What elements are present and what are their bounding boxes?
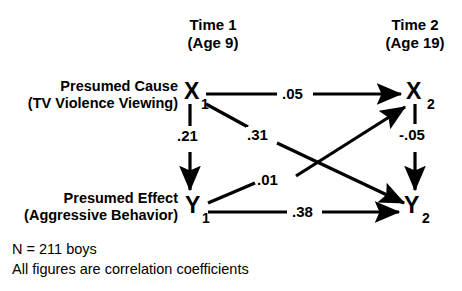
arrow-y1-to-x2-upper — [296, 107, 405, 176]
path-label-x1-to-y2: .31 — [246, 127, 269, 142]
column-header-time-1: Time 1 (Age 9) — [168, 16, 258, 51]
node-y2: Y — [404, 194, 419, 217]
path-label-x1-to-x2: .05 — [281, 86, 304, 101]
node-y1-subscript: 1 — [202, 211, 210, 225]
node-y1: Y — [185, 194, 200, 217]
row-header-presumed-effect: Presumed Effect (Aggressive Behavior) — [0, 190, 178, 224]
row-header-presumed-cause-line2: (TV Violence Viewing) — [0, 95, 178, 112]
row-header-presumed-effect-line2: (Aggressive Behavior) — [0, 207, 178, 224]
path-label-x1-to-y1: .21 — [176, 128, 199, 143]
row-header-presumed-effect-line1: Presumed Effect — [0, 190, 178, 207]
footnote-sample-size: N = 211 boys — [12, 240, 97, 260]
arrow-x1-to-y2-lower — [277, 143, 404, 203]
node-x1: X — [184, 80, 199, 103]
column-header-time-2-line1: Time 2 — [368, 16, 462, 34]
node-x2: X — [406, 80, 421, 103]
path-label-y1-to-x2: .01 — [256, 172, 279, 187]
row-header-presumed-cause: Presumed Cause (TV Violence Viewing) — [0, 78, 178, 112]
path-label-y1-to-y2: .38 — [291, 204, 314, 219]
arrow-x1-to-y2-upper — [206, 104, 248, 127]
node-x1-subscript: 1 — [201, 97, 209, 111]
arrow-y1-to-x2-lower — [208, 183, 255, 203]
footnote-coefficients: All figures are correlation coefficients — [12, 260, 249, 280]
column-header-time-2-line2: (Age 19) — [368, 34, 462, 52]
column-header-time-1-line1: Time 1 — [168, 16, 258, 34]
row-header-presumed-cause-line1: Presumed Cause — [0, 78, 178, 95]
path-label-x2-to-y2: -.05 — [398, 127, 426, 142]
column-header-time-1-line2: (Age 9) — [168, 34, 258, 52]
cross-lagged-panel-figure: Time 1 (Age 9) Time 2 (Age 19) Presumed … — [0, 0, 462, 291]
node-x2-subscript: 2 — [427, 97, 435, 111]
node-y2-subscript: 2 — [422, 211, 430, 225]
column-header-time-2: Time 2 (Age 19) — [368, 16, 462, 51]
